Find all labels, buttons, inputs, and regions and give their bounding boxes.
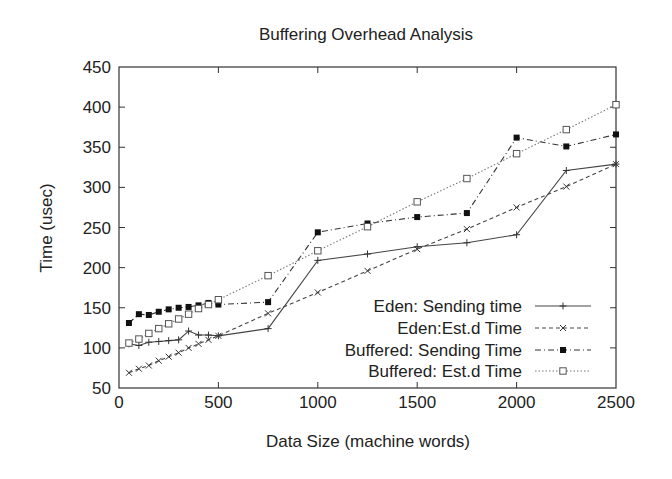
data-point [156,358,162,364]
legend-marker [560,347,566,353]
data-point [126,370,132,376]
y-tick-label: 400 [83,98,111,117]
data-point [166,354,172,360]
data-point [196,341,202,347]
data-point [414,199,420,205]
data-point [136,336,142,342]
legend-marker [560,303,567,310]
data-point [563,126,569,132]
data-point [464,210,470,216]
x-tick-label: 0 [114,393,123,412]
y-tick-label: 300 [83,178,111,197]
series-line [129,134,616,323]
data-point [136,311,142,317]
series-line [129,164,616,345]
data-point [613,102,619,108]
data-point [195,305,201,311]
data-point [265,272,271,278]
data-point [514,135,520,141]
data-point [563,143,569,149]
legend-item: Buffered: Sending Time [345,341,591,360]
data-point [563,184,569,190]
y-tick-label: 250 [83,219,111,238]
data-point [166,306,172,312]
y-tick-label: 100 [83,339,111,358]
x-axis: 05001000150020002500 [114,67,635,412]
data-point [175,316,181,322]
data-point [195,332,202,339]
data-point [364,250,371,257]
chart-title: Buffering Overhead Analysis [259,25,473,44]
data-point [265,310,271,316]
data-point [176,350,182,356]
y-tick-label: 350 [83,138,111,157]
x-tick-label: 2000 [498,393,536,412]
legend-label: Buffered: Est.d Time [368,362,522,381]
data-point [135,342,142,349]
data-point [186,304,192,310]
data-point [364,223,370,229]
data-point [186,345,192,351]
series-3 [126,131,619,326]
x-tick-label: 1000 [299,393,337,412]
legend-label: Eden: Sending time [374,297,522,316]
data-point [315,290,321,296]
data-point [145,339,152,346]
data-point [514,204,520,210]
series-1 [125,161,619,349]
data-point [464,175,470,181]
data-point [166,321,172,327]
data-point [215,297,221,303]
data-point [315,229,321,235]
data-point [265,299,271,305]
legend-item: Eden:Est.d Time [397,319,591,338]
legend: Eden: Sending timeEden:Est.d TimeBuffere… [345,297,591,381]
data-point [156,309,162,315]
y-tick-label: 150 [83,299,111,318]
legend-label: Buffered: Sending Time [345,341,522,360]
data-point [176,305,182,311]
series-4 [126,102,619,347]
data-point [365,268,371,274]
data-point [146,330,152,336]
data-point [165,337,172,344]
data-point [185,311,191,317]
x-axis-label: Data Size (machine words) [266,432,470,451]
data-point [205,301,211,307]
line-chart: Buffering Overhead Analysis 501001502002… [0,0,672,479]
data-point [463,239,470,246]
data-point [146,363,152,369]
data-point [613,131,619,137]
legend-item: Buffered: Est.d Time [368,362,591,381]
x-tick-label: 1500 [398,393,436,412]
x-tick-label: 2500 [597,393,635,412]
y-tick-label: 450 [83,58,111,77]
data-point [126,320,132,326]
y-axis-label: Time (usec) [37,183,56,272]
data-point [156,325,162,331]
x-tick-label: 500 [204,393,232,412]
data-point [414,214,420,220]
data-point [155,338,162,345]
plot-area [125,102,619,376]
legend-item: Eden: Sending time [374,297,591,316]
data-point [464,226,470,232]
data-point [126,340,132,346]
data-point [315,248,321,254]
legend-marker [560,368,566,374]
data-point [513,150,519,156]
y-tick-label: 50 [92,379,111,398]
legend-label: Eden:Est.d Time [397,319,522,338]
data-point [136,366,142,372]
y-tick-label: 200 [83,259,111,278]
data-point [146,312,152,318]
